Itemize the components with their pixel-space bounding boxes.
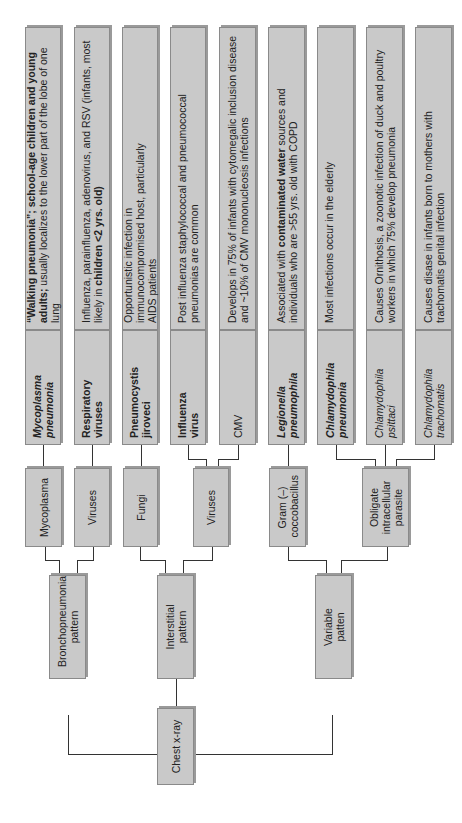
connector [45, 560, 60, 561]
connector [188, 459, 207, 460]
connector [387, 547, 388, 561]
description-mycoplasma-pneumonia: “Walking pneumonia”; school-age children… [25, 27, 61, 330]
connector [59, 561, 60, 575]
organism-legionella-pneumophila-node: Legionella pneumophila [268, 330, 305, 445]
description-chlamydophila-psittaci: Causes Ornithosis, a zoonotic infection … [366, 27, 403, 330]
node-label: Chlamydophila psittaci [373, 358, 397, 438]
category-gram-negative-coccobacillus-node: Gram (–) coccobacillus [269, 468, 306, 547]
connector [140, 560, 166, 561]
root-chest-xray-node: Chest x-ray [157, 708, 194, 785]
description-cmv: Develops in 75% of infants with cytomega… [219, 27, 256, 330]
description-respiratory-viruses: Influenza, parainfluenza, adenovirus, an… [74, 27, 110, 330]
node-label: Influenza virus [176, 378, 200, 438]
pattern-variable-node: Variable patten [315, 575, 352, 679]
description-text: Causes Ornithosis, a zoonotic infection … [373, 43, 397, 323]
description-text: Opportunistic infection in immunocomprom… [122, 133, 158, 323]
node-label: Obligate intracellular parasite [368, 478, 404, 538]
connector [165, 561, 166, 575]
description-text: Post influenza staphylococcal and pneumo… [176, 53, 200, 323]
node-label: Mycoplasma [38, 478, 50, 537]
connector [396, 460, 397, 468]
description-text: Causes disase in infants born to mothers… [422, 73, 446, 323]
description-chlamydophila-pneumonia: Most infections occur in the elderly [317, 27, 354, 330]
connector [326, 561, 327, 575]
category-viruses-node: Viruses [193, 468, 229, 547]
description-legionella-pneumophila: Associated with contaminated water sourc… [268, 27, 305, 330]
connector [385, 445, 386, 468]
connector [218, 459, 238, 460]
description-text: “Walking pneumonia”; school-age children… [25, 34, 61, 323]
pattern-bronchopneumonia-node: Bronchopneumonia pattern [49, 575, 86, 679]
connector [396, 459, 434, 460]
connector [341, 560, 387, 561]
connector [43, 445, 44, 468]
organism-influenza-virus-node: Influenza virus [170, 330, 206, 445]
node-label: Viruses [86, 490, 98, 525]
connector [218, 460, 219, 468]
organism-respiratory-viruses-node: Respiratory viruses [74, 330, 110, 445]
connector [140, 547, 141, 561]
node-label: Pneumocystis jiroveci [128, 358, 152, 438]
connector [375, 460, 376, 468]
node-label: Viruses [205, 490, 217, 525]
organism-pneumocystis-jiroveci-node: Pneumocystis jiroveci [122, 330, 158, 445]
node-label: Chest x-ray [170, 720, 182, 774]
connector [332, 715, 333, 755]
connector [341, 561, 342, 575]
node-label: Chlamydophila pneumonia [324, 353, 348, 438]
connector [206, 460, 207, 468]
connector [188, 445, 189, 460]
node-label: Gram (–) coccobacillus [276, 478, 300, 538]
node-label: Interstitial pattern [164, 592, 188, 662]
node-label: Fungi [135, 494, 147, 520]
category-fungi-node: Fungi [123, 468, 158, 547]
organism-chlamydophila-trachomatis-node: Chlamydophila trachomatis [415, 330, 452, 445]
organism-chlamydophila-psittaci-node: Chlamydophila psittaci [366, 330, 403, 445]
node-label: Mycoplasma pneumonia [31, 358, 55, 438]
connector [183, 561, 184, 575]
category-viruses-node: Viruses [74, 468, 110, 547]
connector [92, 445, 93, 468]
flowchart: Chest x-ray Bronchopneumonia pattern Int… [0, 0, 462, 823]
connector [288, 445, 289, 468]
node-label: Chlamydophila trachomatis [422, 358, 446, 438]
organism-chlamydophila-pneumonia-node: Chlamydophila pneumonia [317, 330, 354, 445]
connector [93, 547, 94, 561]
organism-cmv-node: CMV [219, 330, 256, 445]
connector [68, 754, 332, 755]
connector [77, 560, 93, 561]
node-label: CMV [232, 415, 244, 438]
connector [434, 445, 435, 460]
description-text: Associated with contaminated water sourc… [275, 63, 299, 323]
connector [183, 560, 212, 561]
node-label: Bronchopneumonia pattern [56, 587, 80, 667]
connector [141, 445, 142, 468]
connector [238, 445, 239, 460]
description-pneumocystis-jiroveci: Opportunistic infection in immunocomprom… [122, 27, 158, 330]
description-text: Most infections occur in the elderly [323, 162, 335, 323]
description-text: Influenza, parainfluenza, adenovirus, an… [80, 34, 104, 323]
connector [288, 560, 327, 561]
node-label: Variable patten [322, 597, 346, 657]
connector [288, 547, 289, 561]
pattern-interstitial-node: Interstitial pattern [157, 575, 194, 679]
description-influenza-virus: Post influenza staphylococcal and pneumo… [170, 27, 206, 330]
description-text: Develops in 75% of infants with cytomega… [226, 34, 250, 323]
connector [176, 675, 177, 708]
connector [336, 445, 337, 460]
connector [336, 459, 376, 460]
connector [77, 561, 78, 575]
node-label: Legionella pneumophila [275, 358, 299, 438]
category-mycoplasma-node: Mycoplasma [25, 468, 62, 547]
description-chlamydophila-trachomatis: Causes disase in infants born to mothers… [415, 27, 452, 330]
connector [45, 547, 46, 561]
connector [212, 547, 213, 561]
node-label: Respiratory viruses [80, 368, 104, 438]
connector [68, 715, 69, 755]
category-obligate-intracellular-parasite-node: Obligate intracellular parasite [362, 468, 409, 547]
organism-mycoplasma-pneumonia-node: Mycoplasma pneumonia [25, 330, 61, 445]
